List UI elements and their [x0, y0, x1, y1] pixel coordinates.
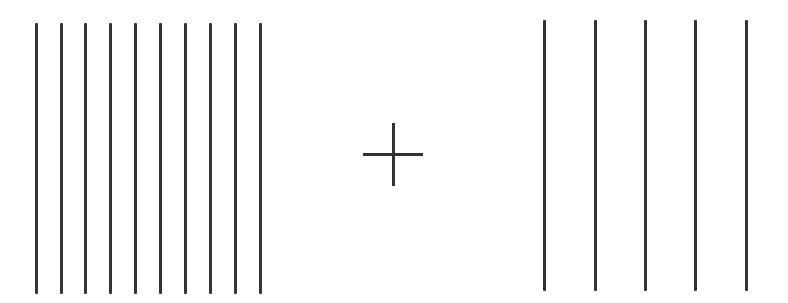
grating-line	[109, 23, 112, 294]
grating-line	[134, 23, 137, 294]
cross-vertical-arm	[392, 123, 395, 186]
grating-line	[35, 23, 38, 294]
grating-line	[694, 20, 697, 291]
grating-line	[594, 20, 597, 291]
grating-line	[259, 23, 262, 294]
grating-line	[543, 20, 546, 291]
grating-line	[234, 23, 237, 294]
grating-line	[159, 23, 162, 294]
grating-line	[184, 23, 187, 294]
grating-line	[644, 20, 647, 291]
grating-line	[60, 23, 63, 294]
grating-line	[84, 23, 87, 294]
stimulus-figure	[0, 0, 788, 303]
grating-line	[209, 23, 212, 294]
grating-line	[745, 20, 748, 291]
